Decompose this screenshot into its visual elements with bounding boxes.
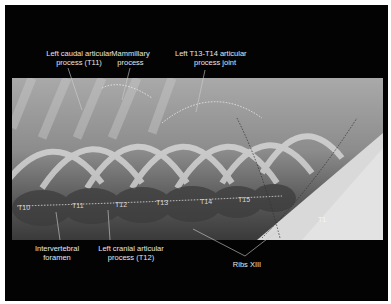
label-line: foramen	[22, 254, 92, 263]
label-line: process joint	[175, 59, 285, 68]
label-intervertebral-foramen: Intervertebral foramen	[22, 245, 92, 262]
label-line: process	[108, 59, 153, 68]
label-ribs-xiii: Ribs XIII	[222, 261, 272, 270]
label-line: process (T12)	[86, 254, 176, 263]
label-left-cranial-articular-process: Left cranial articular process (T12)	[86, 245, 176, 262]
label-mammillary-process: Mammillary process	[108, 50, 153, 67]
label-line: Ribs XIII	[222, 261, 272, 270]
label-left-t13-t14-articular-process-joint: Left T13-T14 articular process joint	[175, 50, 285, 67]
